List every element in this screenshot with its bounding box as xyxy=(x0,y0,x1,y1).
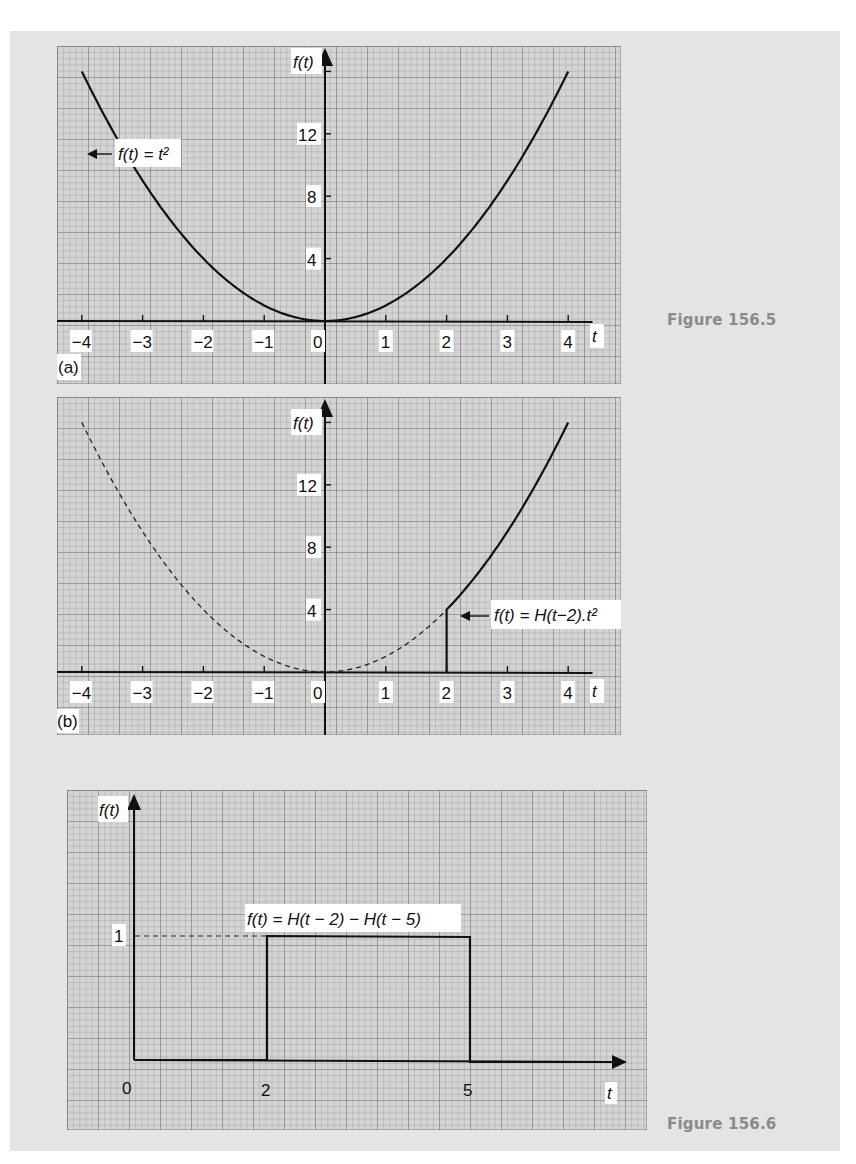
xtick-label: −2 xyxy=(193,684,212,703)
annotation-label: f(t) = t² xyxy=(118,145,170,164)
xtick-label: −2 xyxy=(193,333,212,352)
xtick-label: 1 xyxy=(381,333,390,352)
chart-panel-a: f(t) = t² f(t) t (a) −4−3−2−101234 4812 xyxy=(57,46,621,384)
xtick-label: 3 xyxy=(502,684,511,703)
ytick-label: 8 xyxy=(307,188,316,207)
chart-a-svg: f(t) = t² f(t) t (a) −4−3−2−101234 4812 xyxy=(57,46,621,384)
chart-panel-c: f(t) = H(t − 2) − H(t − 5) f(t) 1 0 2 5 … xyxy=(67,790,647,1130)
ytick-label: 4 xyxy=(307,602,316,621)
xtick-label: −3 xyxy=(133,684,152,703)
xlabel-a: t xyxy=(590,324,604,348)
figure-caption-156-5: Figure 156.5 xyxy=(667,311,776,329)
annotation-label: f(t) = H(t−2).t² xyxy=(494,606,598,625)
xlabel-c: t xyxy=(605,1082,617,1104)
ylabel-c: f(t) xyxy=(98,796,128,822)
xtick-label: 2 xyxy=(442,684,451,703)
annotation-c: f(t) = H(t − 2) − H(t − 5) xyxy=(245,904,461,932)
annotation-label: f(t) = H(t − 2) − H(t − 5) xyxy=(247,910,421,929)
xtick-label: −1 xyxy=(254,333,273,352)
xtick-label: 2 xyxy=(442,333,451,352)
svg-text:f(t): f(t) xyxy=(293,414,314,433)
ytick-label: 4 xyxy=(307,251,316,270)
ylabel-a: f(t) xyxy=(291,48,322,74)
ytick-label: 12 xyxy=(298,126,317,145)
ytick-label: 8 xyxy=(307,539,316,558)
xtick-0: 0 xyxy=(122,1079,131,1098)
xtick-label: −4 xyxy=(72,684,91,703)
chart-c-svg: f(t) = H(t − 2) − H(t − 5) f(t) 1 0 2 5 … xyxy=(67,790,647,1130)
xtick-label: 0 xyxy=(313,333,322,352)
svg-text:(b): (b) xyxy=(57,712,78,731)
xtick-label: 1 xyxy=(381,684,390,703)
svg-text:f(t): f(t) xyxy=(99,801,120,820)
ylabel-b: f(t) xyxy=(291,409,322,435)
chart-panel-b: f(t) = H(t−2).t² f(t) t (b) −4−3−2−10123… xyxy=(57,397,621,735)
xtick-label: 3 xyxy=(502,333,511,352)
svg-text:(a): (a) xyxy=(58,358,79,377)
xtick-label: 0 xyxy=(313,684,322,703)
xtick-label: −3 xyxy=(133,333,152,352)
figure-caption-156-6: Figure 156.6 xyxy=(667,1115,776,1133)
ytick-1: 1 xyxy=(112,924,126,946)
svg-text:1: 1 xyxy=(114,927,123,946)
xtick-label: −1 xyxy=(254,684,273,703)
svg-text:f(t): f(t) xyxy=(293,53,314,72)
xtick-label: −4 xyxy=(72,333,91,352)
xlabel-b: t xyxy=(590,679,604,703)
xtick-2: 2 xyxy=(261,1081,270,1100)
xtick-label: 4 xyxy=(563,684,572,703)
panel-tag-a: (a) xyxy=(57,354,81,380)
chart-b-svg: f(t) = H(t−2).t² f(t) t (b) −4−3−2−10123… xyxy=(57,397,621,735)
xtick-label: 4 xyxy=(563,333,572,352)
grid-lines xyxy=(67,790,647,1130)
ytick-label: 12 xyxy=(298,477,317,496)
xtick-5: 5 xyxy=(463,1081,472,1100)
panel-tag-b: (b) xyxy=(57,709,79,733)
